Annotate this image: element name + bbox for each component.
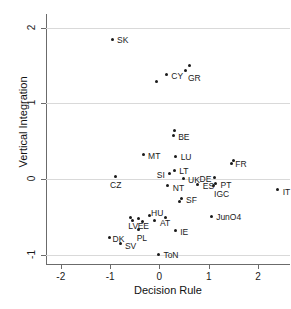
data-point-label: SV — [125, 242, 136, 251]
data-point-label: AT — [160, 219, 170, 228]
data-point-label: NT — [173, 184, 184, 193]
x-axis-tick — [110, 264, 111, 269]
data-point-label: ToN — [163, 251, 178, 260]
data-point — [180, 197, 183, 200]
data-point — [174, 229, 177, 232]
data-point — [166, 184, 169, 187]
data-point — [173, 129, 176, 132]
data-point — [108, 236, 111, 239]
x-axis-tick — [159, 264, 160, 269]
data-point — [210, 215, 213, 218]
data-point-label: PT — [221, 181, 232, 190]
data-point-label: CY — [171, 72, 183, 81]
data-point — [119, 242, 122, 245]
data-point — [137, 228, 140, 231]
x-axis-line — [46, 264, 290, 265]
data-point-label: PL — [137, 234, 147, 243]
data-point-label: IT — [283, 188, 291, 197]
data-point — [184, 69, 187, 72]
data-point — [276, 188, 279, 191]
data-point — [164, 216, 167, 219]
x-axis-tick-label: 1 — [199, 271, 219, 282]
x-axis-tick — [209, 264, 210, 269]
data-point — [155, 80, 158, 83]
data-point — [182, 177, 185, 180]
x-axis-tick-label: 0 — [149, 271, 169, 282]
data-point-label: GR — [188, 74, 201, 83]
data-point — [178, 200, 181, 203]
data-point — [142, 153, 145, 156]
data-point — [129, 216, 132, 219]
data-point — [111, 38, 114, 41]
data-point-label: LU — [181, 153, 192, 162]
data-point — [137, 217, 140, 220]
plot-area: SKCYGRBEMTLUFRSILTCZUKDENTESPTIGCITSFHUE… — [46, 14, 290, 264]
y-axis-tick-label: -1 — [26, 247, 37, 261]
data-point-label: SF — [186, 196, 197, 205]
data-point-label: SK — [117, 36, 128, 45]
x-axis-tick — [258, 264, 259, 269]
x-axis-title: Decision Rule — [46, 284, 290, 296]
data-point-label: LT — [179, 167, 188, 176]
data-point-label: MT — [148, 152, 160, 161]
x-axis-tick-label: -2 — [51, 271, 71, 282]
y-axis-tick-label: 2 — [26, 20, 37, 34]
data-point-label: SI — [157, 171, 165, 180]
data-point-label: BE — [178, 133, 189, 142]
data-point — [188, 64, 191, 67]
data-point-label: IGC — [214, 190, 229, 199]
data-point-label: HU — [151, 209, 163, 218]
x-axis-tick-label: 2 — [248, 271, 268, 282]
data-point — [174, 155, 177, 158]
x-axis-tick — [61, 264, 62, 269]
data-point — [168, 172, 171, 175]
data-point — [172, 134, 175, 137]
x-axis-tick-label: -1 — [100, 271, 120, 282]
scatter-chart: -1012 -2-1012 SKCYGRBEMTLUFRSILTCZUKDENT… — [0, 0, 291, 309]
data-point — [157, 253, 160, 256]
data-point — [173, 169, 176, 172]
data-point — [230, 162, 233, 165]
data-point — [153, 219, 156, 222]
y-axis-title: Vertical Integration — [17, 47, 29, 197]
data-point-label: JunO4 — [216, 213, 241, 222]
data-point — [213, 176, 216, 179]
data-point-label: FR — [235, 160, 246, 169]
data-point — [114, 175, 117, 178]
data-point-label: IE — [180, 228, 188, 237]
data-point — [196, 183, 199, 186]
data-point-label: CZ — [110, 181, 121, 190]
data-point — [165, 73, 168, 76]
